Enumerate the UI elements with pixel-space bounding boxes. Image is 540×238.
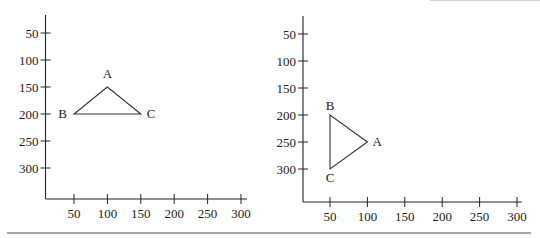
y-tick-label: 200 [277,108,297,123]
plot-right: 5010015020025030050100150200250300ABC [277,16,527,224]
x-tick-label: 50 [68,206,81,221]
y-tick-label: 100 [19,53,39,68]
x-tick-label: 50 [324,209,337,224]
x-tick-label: 100 [358,209,378,224]
vertex-label-a: A [103,66,113,81]
x-tick-label: 250 [470,209,490,224]
x-tick-label: 300 [507,209,527,224]
figure: 5010015020025030050100150200250300ABC 50… [0,0,540,238]
x-tick-label: 150 [395,209,415,224]
y-tick-label: 100 [277,54,297,69]
x-tick-label: 150 [131,206,151,221]
x-tick-label: 200 [432,209,452,224]
y-tick-label: 200 [19,107,39,122]
x-tick-label: 250 [198,206,218,221]
vertex-label-c: C [326,170,335,185]
y-tick-label: 50 [283,27,296,42]
y-tick-label: 150 [19,80,39,95]
y-tick-label: 150 [277,81,297,96]
triangle-abc [330,115,367,169]
x-tick-label: 200 [164,206,184,221]
y-tick-label: 250 [277,135,297,150]
x-tick-label: 100 [98,206,118,221]
y-tick-label: 50 [26,26,39,41]
vertex-label-b: B [58,106,67,121]
y-tick-label: 300 [277,162,297,177]
vertex-label-a: A [372,134,382,149]
y-tick-label: 300 [19,161,39,176]
triangle-abc [74,87,141,114]
plot-left: 5010015020025030050100150200250300ABC [19,15,251,221]
x-tick-label: 300 [231,206,251,221]
y-tick-label: 250 [19,134,39,149]
vertex-label-c: C [147,106,156,121]
vertex-label-b: B [326,98,335,113]
